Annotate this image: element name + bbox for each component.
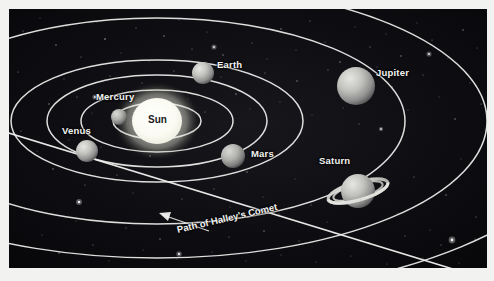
diagram-plate: Sun Mercury Venus Earth Mars Jupiter Sat… [9, 9, 487, 268]
planet-mars [221, 144, 245, 168]
planet-jupiter [337, 67, 375, 105]
diagram-canvas [9, 9, 487, 268]
space-background [9, 9, 487, 268]
planet-venus [76, 140, 98, 162]
planet-earth [192, 62, 214, 84]
solar-system-figure: Sun Mercury Venus Earth Mars Jupiter Sat… [0, 0, 494, 281]
planet-mercury [111, 109, 127, 125]
label-sun: Sun [148, 114, 167, 125]
